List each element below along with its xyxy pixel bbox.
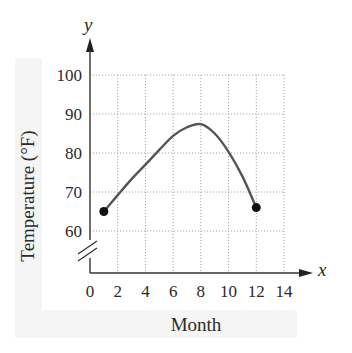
x-tick-label: 10 — [220, 282, 237, 301]
x-axis-label: Month — [171, 314, 222, 336]
axis-break-gap — [87, 240, 93, 258]
x-tick-label: 0 — [86, 282, 95, 301]
data-point-marker — [252, 203, 261, 212]
y-tick-label: 70 — [65, 183, 82, 202]
y-axis-label: Temperature (°F) — [17, 130, 39, 261]
y-tick-label: 90 — [65, 105, 82, 124]
y-tick-label: 60 — [65, 222, 82, 241]
temperature-curve — [104, 124, 256, 212]
y-tick-label: 100 — [57, 66, 83, 85]
x-tick-label: 14 — [275, 282, 293, 301]
y-axis-arrow-icon — [86, 38, 94, 52]
y-tick-label: 80 — [65, 144, 82, 163]
y-axis-name: y — [84, 14, 92, 36]
x-tick-label: 2 — [113, 282, 122, 301]
data-point-marker — [99, 207, 108, 216]
x-tick-label: 8 — [197, 282, 206, 301]
x-axis-arrow-icon — [299, 269, 313, 277]
x-tick-label: 6 — [169, 282, 178, 301]
chart-area: 6070809010002468101214 — [0, 0, 352, 353]
x-axis-name: x — [318, 259, 326, 281]
x-tick-label: 4 — [141, 282, 150, 301]
x-tick-label: 12 — [248, 282, 265, 301]
